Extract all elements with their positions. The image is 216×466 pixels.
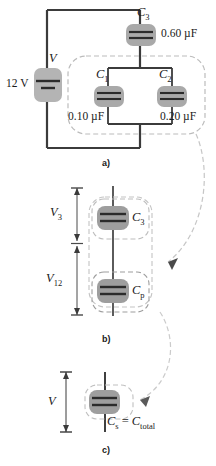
panel-a-label: a)	[102, 159, 110, 168]
capacitor-c1-symbol	[94, 86, 124, 107]
v12-subscript: 12	[54, 278, 63, 288]
panel-c-label: c)	[102, 446, 110, 455]
capacitor-c3-label-panel-a: C3	[137, 6, 150, 21]
dimension-v12-label: V12	[46, 272, 62, 287]
v3-letter: V	[50, 205, 58, 219]
voltage-source-label: V	[49, 52, 57, 65]
capacitor-c2-label: C2	[159, 68, 172, 83]
dimension-v	[60, 372, 72, 432]
total-capacitance-expression: Cs=Ctotal	[107, 415, 155, 430]
reduction-arrow-b-to-c	[140, 312, 171, 407]
capacitor-c2-symbol	[157, 86, 187, 107]
capacitor-c3-label-panel-b: C3	[132, 211, 145, 226]
v3-subscript: 3	[58, 212, 62, 222]
voltage-source-symbol	[34, 68, 62, 102]
panel-b-label: b)	[102, 335, 111, 344]
dimension-v3	[71, 188, 83, 241]
dimension-v-label: V	[48, 395, 56, 408]
ctotal-subscript: total	[140, 421, 155, 431]
dimension-v3-label: V3	[50, 206, 62, 221]
c3b-subscript: 3	[140, 217, 144, 227]
c3-subscript: 3	[145, 12, 149, 22]
ctotal-letter: C	[132, 414, 140, 428]
reduction-arrow-a-to-b	[168, 134, 204, 270]
v12-letter: V	[46, 271, 54, 285]
capacitor-c1-value: 0.10 µF	[68, 111, 104, 123]
capacitor-cp-label: Cp	[132, 284, 145, 299]
capacitor-c2-value: 0.20 µF	[160, 111, 196, 123]
dimension-v12	[71, 244, 83, 316]
c1-subscript: 1	[104, 74, 108, 84]
capacitor-circuit-figure: V 12 V C3 0.60 µF C1 0.10 µF C2 0.20 µF …	[0, 0, 216, 466]
capacitor-c3-value: 0.60 µF	[161, 28, 197, 40]
c2-subscript: 2	[167, 74, 171, 84]
capacitor-c1-label: C1	[96, 68, 109, 83]
capacitor-cs-symbol	[89, 390, 120, 414]
capacitor-c3-symbol-panel-b	[97, 206, 129, 230]
capacitor-c3-symbol-panel-a	[126, 24, 156, 46]
cp-subscript: p	[140, 290, 144, 300]
capacitor-cp-symbol	[97, 279, 129, 303]
equals-sign: =	[119, 414, 132, 428]
voltage-source-value: 12 V	[6, 78, 28, 90]
